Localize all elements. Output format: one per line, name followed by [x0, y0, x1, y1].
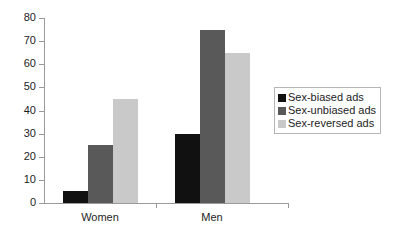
y-tick-label: 30	[2, 128, 36, 139]
x-category-label: Men	[172, 212, 252, 223]
x-axis-line	[44, 203, 288, 204]
y-tick-mark	[39, 41, 44, 42]
legend-label: Sex-biased ads	[288, 92, 364, 103]
y-tick-mark	[39, 87, 44, 88]
y-tick-label: 0	[2, 197, 36, 208]
legend-item[interactable]: Sex-unbiased ads	[278, 104, 376, 117]
legend-swatch-icon	[278, 120, 286, 128]
bar-chart: 01020304050607080 WomenMen Sex-biased ad…	[0, 0, 396, 237]
legend-swatch-icon	[278, 107, 286, 115]
legend-label: Sex-reversed ads	[288, 118, 374, 129]
y-tick-label: 50	[2, 81, 36, 92]
bar	[88, 145, 113, 203]
bar	[200, 30, 225, 203]
x-tick-mark	[156, 203, 157, 208]
legend-label: Sex-unbiased ads	[288, 105, 376, 116]
y-tick-mark	[39, 134, 44, 135]
y-tick-label: 70	[2, 35, 36, 46]
y-tick-mark	[39, 64, 44, 65]
bar	[63, 191, 88, 203]
y-tick-label: 60	[2, 58, 36, 69]
legend-swatch-icon	[278, 94, 286, 102]
y-tick-mark	[39, 157, 44, 158]
bar	[225, 53, 250, 203]
y-tick-mark	[39, 111, 44, 112]
y-tick-label: 10	[2, 174, 36, 185]
y-tick-mark	[39, 180, 44, 181]
bar	[113, 99, 138, 203]
x-tick-mark	[288, 203, 289, 208]
y-tick-label: 80	[2, 12, 36, 23]
y-tick-label: 20	[2, 151, 36, 162]
x-category-label: Women	[60, 212, 140, 223]
chart-legend: Sex-biased ads Sex-unbiased ads Sex-reve…	[274, 87, 381, 134]
y-tick-mark	[39, 18, 44, 19]
y-tick-label: 40	[2, 105, 36, 116]
bar	[175, 134, 200, 203]
y-tick-mark	[39, 203, 44, 204]
legend-item[interactable]: Sex-biased ads	[278, 91, 376, 104]
legend-item[interactable]: Sex-reversed ads	[278, 117, 376, 130]
y-axis-line	[44, 18, 45, 204]
